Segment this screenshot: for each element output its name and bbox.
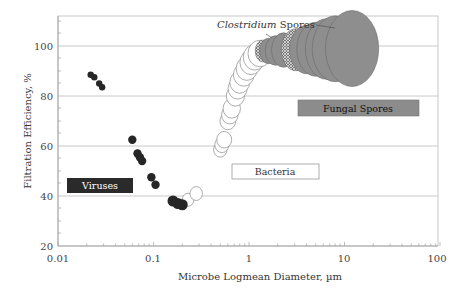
viruses-label: Viruses — [81, 180, 118, 191]
y-tick-20: 20 — [40, 241, 53, 252]
y-tick-100: 100 — [34, 41, 53, 52]
clostridium-label: Clostridium Spores — [217, 19, 315, 30]
virus-point — [128, 136, 136, 144]
bacteria-point — [217, 131, 232, 148]
x-tick-100: 100 — [427, 253, 446, 264]
bacteria-point — [190, 187, 203, 201]
y-tick-80: 80 — [40, 91, 53, 102]
fungal-spores-label: Fungal Spores — [323, 103, 393, 114]
x-tick-0.01: 0.01 — [47, 253, 69, 264]
x-tick-1: 1 — [246, 253, 252, 264]
x-axis-title: Microbe Logmean Diameter, µm — [178, 271, 342, 282]
x-tick-10: 10 — [338, 253, 351, 264]
bacteria-label-box: Bacteria — [232, 164, 319, 179]
filtration-efficiency-chart: 20 40 60 80 100 0.01 0.1 1 10 100 Microb… — [0, 0, 467, 292]
x-tick-labels: 0.01 0.1 1 10 100 — [47, 253, 447, 264]
fungal-spore-point — [325, 11, 378, 87]
fungal-spores-label-box: Fungal Spores — [298, 100, 419, 116]
virus-point — [138, 157, 146, 165]
virus-point — [177, 199, 188, 210]
y-tick-60: 60 — [40, 141, 53, 152]
viruses-label-box: Viruses — [67, 178, 133, 193]
virus-point — [151, 181, 159, 189]
x-tick-0.1: 0.1 — [145, 253, 161, 264]
y-axis-title: Filtration Efficiency, % — [22, 73, 33, 189]
y-tick-labels: 20 40 60 80 100 — [34, 41, 53, 252]
bacteria-label: Bacteria — [255, 166, 296, 177]
virus-point — [91, 74, 97, 80]
clostridium-rest: Spores — [277, 19, 315, 30]
y-tick-40: 40 — [40, 191, 53, 202]
virus-point — [147, 173, 155, 181]
clostridium-italic: Clostridium — [217, 19, 277, 30]
virus-point — [99, 84, 105, 90]
